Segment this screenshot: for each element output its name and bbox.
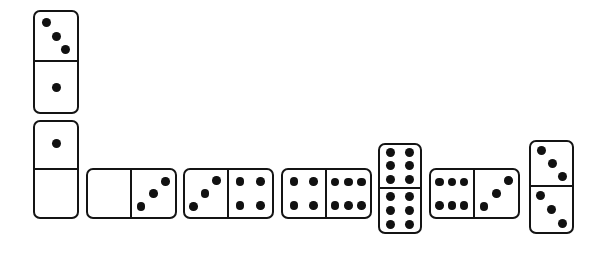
- pip-icon: [290, 201, 299, 210]
- pip-icon: [460, 201, 469, 210]
- pip-icon: [331, 178, 340, 187]
- domino-6-3-half-b: [475, 170, 519, 217]
- pip-icon: [52, 83, 61, 92]
- domino-4-6-half-b: [327, 170, 371, 217]
- pip-icon: [161, 177, 170, 186]
- domino-1-blank[interactable]: [33, 120, 79, 219]
- domino-3-3-double[interactable]: [529, 140, 574, 234]
- domino-6-6-double-half-b: [380, 189, 420, 233]
- pip-icon: [405, 148, 414, 157]
- pip-icon: [405, 192, 414, 201]
- domino-6-3-half-a: [431, 170, 475, 217]
- domino-3-4-half-b: [229, 170, 273, 217]
- pip-icon: [290, 177, 299, 186]
- pip-icon: [504, 176, 513, 185]
- pip-icon: [357, 178, 366, 187]
- pip-icon: [547, 205, 556, 214]
- pip-icon: [386, 161, 395, 170]
- pip-icon: [236, 177, 245, 186]
- pip-icon: [149, 189, 158, 198]
- pip-icon: [256, 201, 265, 210]
- pip-icon: [386, 175, 395, 184]
- domino-1-blank-half-b: [35, 170, 77, 218]
- pip-icon: [309, 201, 318, 210]
- pip-icon: [386, 206, 395, 215]
- domino-3-1[interactable]: [33, 10, 79, 114]
- pip-icon: [405, 175, 414, 184]
- pip-icon: [236, 201, 245, 210]
- pip-icon: [448, 201, 457, 210]
- pip-icon: [212, 176, 221, 185]
- domino-1-blank-half-a: [35, 122, 77, 170]
- pip-icon: [344, 178, 353, 187]
- domino-6-3[interactable]: [429, 168, 520, 219]
- pip-icon: [460, 178, 469, 187]
- domino-3-1-half-b: [35, 62, 77, 112]
- pip-icon: [480, 202, 489, 211]
- pip-icon: [548, 159, 557, 168]
- pip-icon: [256, 177, 265, 186]
- domino-blank-3-half-a: [88, 170, 132, 217]
- pip-icon: [386, 148, 395, 157]
- domino-3-1-half-a: [35, 12, 77, 62]
- domino-3-4[interactable]: [183, 168, 274, 219]
- domino-4-6[interactable]: [281, 168, 372, 219]
- pip-icon: [344, 201, 353, 210]
- pip-icon: [435, 201, 444, 210]
- domino-3-4-half-a: [185, 170, 229, 217]
- pip-icon: [386, 220, 395, 229]
- domino-3-3-double-half-a: [531, 142, 572, 187]
- pip-icon: [405, 161, 414, 170]
- pip-icon: [42, 18, 51, 27]
- pip-icon: [558, 219, 567, 228]
- domino-4-6-half-a: [283, 170, 327, 217]
- pip-icon: [331, 201, 340, 210]
- pip-icon: [201, 189, 210, 198]
- pip-icon: [52, 32, 61, 41]
- pip-icon: [405, 206, 414, 215]
- pip-icon: [537, 146, 546, 155]
- pip-icon: [309, 177, 318, 186]
- pip-icon: [435, 178, 444, 187]
- pip-icon: [558, 172, 567, 181]
- pip-icon: [405, 220, 414, 229]
- pip-icon: [386, 192, 395, 201]
- domino-blank-3[interactable]: [86, 168, 177, 219]
- pip-icon: [448, 178, 457, 187]
- pip-icon: [137, 202, 146, 211]
- domino-6-6-double-half-a: [380, 145, 420, 189]
- pip-icon: [52, 139, 61, 148]
- domino-blank-3-half-b: [132, 170, 176, 217]
- pip-icon: [61, 45, 70, 54]
- pip-icon: [189, 202, 198, 211]
- pip-icon: [357, 201, 366, 210]
- pip-icon: [536, 191, 545, 200]
- domino-3-3-double-half-b: [531, 187, 572, 232]
- domino-6-6-double[interactable]: [378, 143, 422, 234]
- pip-icon: [492, 189, 501, 198]
- domino-scene: [0, 0, 607, 254]
